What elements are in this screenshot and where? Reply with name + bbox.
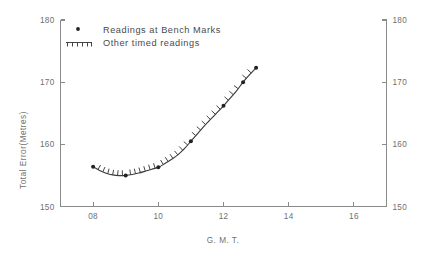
legend-label-bench-marks: Readings at Bench Marks	[103, 25, 221, 35]
y-tick-label-left: 180	[40, 16, 55, 25]
x-tick-label: 14	[284, 212, 294, 221]
bench-mark-point	[91, 165, 95, 169]
y-tick-label-left: 170	[40, 78, 55, 87]
x-tick-label: 08	[88, 212, 98, 221]
bench-mark-point	[254, 66, 258, 70]
y-tick-label-right: 180	[393, 16, 408, 25]
bench-mark-point	[156, 165, 160, 169]
y-tick-label-left: 150	[40, 203, 55, 212]
y-axis-title: Total Error(Metres)	[19, 111, 28, 189]
x-tick-label: 12	[219, 212, 229, 221]
x-tick-label: 16	[349, 212, 359, 221]
bench-mark-point	[241, 80, 245, 84]
chart-background	[0, 0, 428, 258]
y-tick-label-right: 160	[393, 140, 408, 149]
total-error-line-chart: 150160170180 150160170180 0810121416 Tot…	[0, 0, 428, 258]
timed-reading-tick	[118, 170, 119, 175]
chart-container: 150160170180 150160170180 0810121416 Tot…	[0, 0, 428, 258]
legend-label-other-readings: Other timed readings	[103, 38, 200, 48]
bench-mark-point	[124, 173, 128, 177]
y-tick-label-right: 150	[393, 203, 408, 212]
x-tick-label: 10	[153, 212, 163, 221]
y-tick-label-left: 160	[40, 140, 55, 149]
bench-mark-point	[189, 139, 193, 143]
legend-dot-marker-icon	[76, 27, 80, 31]
y-tick-label-right: 170	[393, 78, 408, 87]
bench-mark-point	[222, 104, 226, 108]
x-axis-title: G. M. T.	[207, 236, 240, 245]
